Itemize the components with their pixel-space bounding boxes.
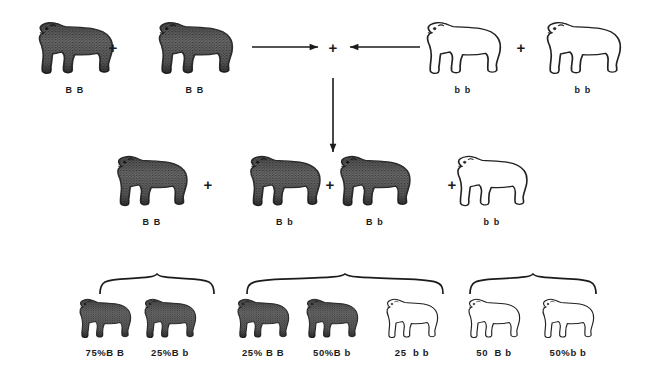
ratio-label: 50 B b	[476, 348, 511, 358]
dog-figure-light-coat	[536, 18, 631, 78]
plus-sign: +	[517, 40, 526, 55]
dog-figure-dark-coat	[230, 296, 296, 341]
dog-figure-dark-coat	[240, 152, 330, 210]
genotype-label: b b	[574, 86, 591, 95]
ratio-label: 25% B B	[242, 348, 284, 358]
plus-sign: +	[109, 40, 118, 55]
dog-figure-dark-coat	[148, 18, 243, 78]
dog-figure-light-coat	[447, 152, 537, 210]
ratio-label: 75%B B	[86, 348, 125, 358]
arrow-down-icon	[323, 68, 343, 162]
brace-1	[98, 272, 216, 294]
ratio-label: 50%B b	[313, 348, 351, 358]
inheritance-diagram: B BB Bb bb b+++ B BB bB bb b+++ 75%B B25…	[0, 0, 660, 381]
genotype-label: B b	[276, 218, 294, 227]
dog-figure-dark-coat	[330, 152, 420, 210]
ratio-label: 25 b b	[395, 348, 429, 358]
arrow-right-icon	[242, 37, 328, 57]
plus-sign: +	[448, 177, 457, 192]
dog-figure-dark-coat	[72, 296, 138, 341]
dog-figure-light-coat	[461, 296, 527, 341]
dog-figure-dark-coat	[107, 152, 197, 210]
genotype-label: B B	[65, 86, 84, 95]
ratio-label: 50%b b	[550, 348, 587, 358]
genotype-label: B B	[185, 86, 204, 95]
dog-figure-light-coat	[535, 296, 601, 341]
ratio-label: 25%B b	[151, 348, 189, 358]
dog-figure-dark-coat	[299, 296, 365, 341]
plus-sign: +	[326, 177, 335, 192]
genotype-label: B B	[142, 218, 161, 227]
brace-2	[245, 272, 445, 294]
dog-figure-light-coat	[379, 296, 445, 341]
arrow-left-icon	[340, 37, 430, 57]
genotype-label: b b	[454, 86, 471, 95]
dog-figure-dark-coat	[137, 296, 203, 341]
genotype-label: B b	[366, 218, 384, 227]
genotype-label: b b	[483, 218, 500, 227]
plus-sign: +	[204, 177, 213, 192]
brace-3	[468, 272, 598, 294]
plus-sign: +	[329, 40, 338, 55]
